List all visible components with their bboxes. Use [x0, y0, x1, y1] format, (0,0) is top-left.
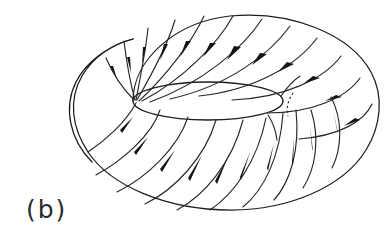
panel-label: (b)	[26, 195, 67, 224]
figure-container: (b)	[0, 0, 392, 243]
streamline-group-top-left	[106, 16, 372, 139]
hidden-streamline	[287, 93, 293, 116]
